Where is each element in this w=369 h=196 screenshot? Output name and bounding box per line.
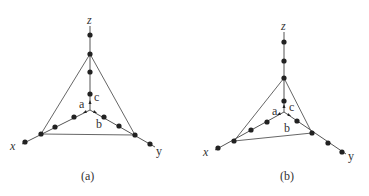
- caption-b: (b): [280, 169, 294, 183]
- caption-a: (a): [81, 169, 94, 183]
- vector-a-label-b: a: [272, 104, 278, 118]
- panel-b: z x y a b c (b): [202, 19, 354, 183]
- z-label-a: z: [86, 13, 92, 27]
- vector-b-label-a: b: [96, 117, 102, 131]
- dots-b: [215, 39, 344, 154]
- vector-c-label-a: c: [94, 90, 99, 104]
- vector-c-label-b: c: [289, 100, 294, 114]
- y-label-b: y: [348, 149, 354, 163]
- panel-a: z x y a b c (a): [9, 13, 162, 183]
- dots-a: [22, 32, 152, 146]
- figure-canvas: z x y a b c (a) z x y a b c (b): [0, 0, 369, 196]
- z-label-b: z: [280, 19, 286, 33]
- vector-a-label-a: a: [79, 97, 85, 111]
- y-axis-b: [284, 112, 346, 154]
- x-label-b: x: [202, 145, 209, 159]
- y-label-a: y: [156, 144, 162, 158]
- vector-b-label-b: b: [284, 121, 290, 135]
- x-label-a: x: [9, 139, 16, 153]
